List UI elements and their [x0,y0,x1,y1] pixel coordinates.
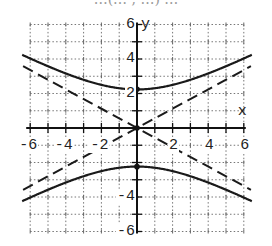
x-tick-label: -4 [54,138,74,153]
lower-vertex-point [134,164,140,170]
x-tick-label: 6 [239,138,250,153]
y-tick-label: 2 [125,86,136,101]
center-point [134,125,140,131]
x-tick-label: -6 [18,138,38,153]
y-tick-label: 6 [125,17,136,32]
x-tick-label: 2 [168,138,179,153]
hyperbola-plot [0,0,272,246]
y-tick-label: -4 [116,189,136,204]
y-tick-label: -6 [116,224,136,239]
x-axis-label: x [238,104,247,119]
y-tick-label: 4 [125,51,136,66]
x-tick-label: -2 [89,138,109,153]
x-tick-label: 4 [204,138,215,153]
y-axis-label: y [141,17,150,32]
